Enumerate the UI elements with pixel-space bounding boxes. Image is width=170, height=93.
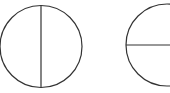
circle-with-vertical-diameter <box>0 6 82 88</box>
diagram-canvas <box>0 0 170 93</box>
circle-with-horizontal-line <box>126 4 170 86</box>
